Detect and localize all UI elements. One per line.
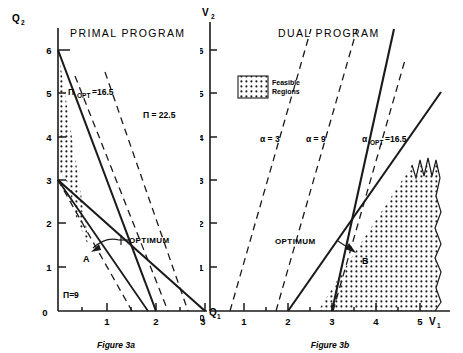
- primal-pi-opt-label: Π: [68, 87, 74, 97]
- primal-origin-label: 0: [42, 307, 47, 318]
- dual-alpha-opt-value: =16.5: [385, 134, 407, 144]
- dual-alpha-opt-sub: OPT: [370, 139, 383, 146]
- primal-constraint-2: [58, 180, 205, 311]
- dual-x-axis-sub: 1: [437, 322, 441, 329]
- dual-y-tick-3: 3: [200, 175, 204, 186]
- dual-origin-label: 0: [200, 312, 205, 323]
- dual-caption: Figure 3b: [311, 340, 349, 350]
- dual-y-ticks: [210, 50, 217, 267]
- dual-x-tick-1: 1: [241, 316, 247, 327]
- dual-y-axis-label: V: [202, 7, 209, 18]
- primal-x-tick-1: 1: [104, 316, 110, 327]
- dual-x-tick-3: 3: [329, 316, 334, 327]
- primal-y-axis-sub: 2: [21, 19, 25, 26]
- dual-y-tick-2: 2: [200, 218, 204, 229]
- dual-alpha-3-label: α = 3: [260, 134, 280, 144]
- figure-root: PRIMAL PROGRAM Q 2 Q 1 0 1 2 3 4 5 6 1 2…: [0, 0, 463, 353]
- primal-x-tick-2: 2: [153, 316, 158, 327]
- primal-pi-9-label: Π=9: [63, 290, 79, 300]
- primal-pi-225-label: Π = 22.5: [143, 110, 176, 120]
- primal-objective-pi-225: [105, 72, 188, 311]
- primal-pi-opt-value: =16.5: [92, 87, 114, 97]
- dual-x-axis-label: V: [429, 316, 436, 327]
- dual-optimum-label: OPTIMUM: [275, 237, 316, 246]
- dual-x-tick-5: 5: [417, 316, 423, 327]
- primal-title: PRIMAL PROGRAM: [70, 27, 185, 39]
- primal-caption: Figure 3a: [97, 340, 135, 350]
- legend-line-2: Regions: [272, 88, 300, 96]
- primal-optimum-label: OPTIMUM: [129, 236, 170, 245]
- dual-y-tick-4: 4: [200, 132, 204, 143]
- dual-x-tick-2: 2: [285, 316, 290, 327]
- dual-title: DUAL PROGRAM: [278, 27, 380, 39]
- dual-alpha-9-label: α = 9: [306, 134, 326, 144]
- feasible-region-dual: [310, 150, 450, 312]
- dual-objective-alpha-3: [230, 29, 311, 311]
- dual-point-b-label: B: [362, 256, 369, 266]
- dual-y-tick-1: 1: [200, 262, 204, 273]
- dual-y-tick-5: 5: [200, 88, 204, 99]
- primal-pi-opt-symbol: Π: [68, 87, 74, 97]
- legend-swatch: [238, 76, 268, 98]
- primal-y-axis-label: Q: [12, 13, 20, 24]
- primal-point-a-label: A: [83, 254, 90, 264]
- primal-y-tick-4: 4: [46, 132, 52, 143]
- dual-alpha-opt-symbol: α: [362, 134, 368, 144]
- dual-x-tick-4: 4: [373, 316, 379, 327]
- primal-pi-opt-sub: OPT: [77, 92, 90, 99]
- dual-panel: Feasible Regions DUAL PROGRAM V 2 V 1 0 …: [200, 0, 463, 353]
- primal-y-tick-3: 3: [46, 175, 51, 186]
- dual-y-axis-sub: 2: [211, 13, 215, 20]
- dual-y-tick-6: 6: [200, 45, 204, 56]
- primal-y-tick-5: 5: [46, 88, 52, 99]
- legend-line-1: Feasible: [272, 79, 300, 86]
- primal-y-tick-6: 6: [46, 45, 51, 56]
- primal-panel: PRIMAL PROGRAM Q 2 Q 1 0 1 2 3 4 5 6 1 2…: [0, 0, 232, 353]
- primal-y-tick-2: 2: [46, 218, 51, 229]
- primal-y-tick-1: 1: [46, 262, 52, 273]
